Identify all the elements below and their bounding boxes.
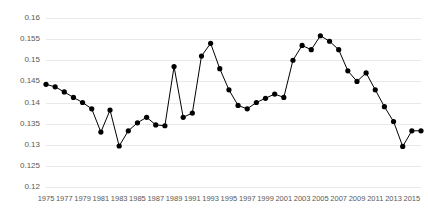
line-chart: 0.120.1250.130.1350.140.1450.150.1550.16… (0, 0, 428, 218)
x-tick-label: 2013 (385, 195, 402, 203)
x-tick-label: 2003 (294, 195, 311, 203)
x-tick-label: 2015 (404, 195, 421, 203)
x-axis-tick-labels: 1975197719791981198319851987198919911993… (0, 0, 428, 218)
x-tick-label: 1981 (93, 195, 110, 203)
x-tick-label: 1991 (184, 195, 201, 203)
x-tick-label: 1985 (129, 195, 146, 203)
x-tick-label: 1987 (147, 195, 164, 203)
x-tick-label: 1975 (38, 195, 55, 203)
x-tick-label: 2005 (312, 195, 329, 203)
x-tick-label: 1989 (166, 195, 183, 203)
x-tick-label: 1983 (111, 195, 128, 203)
x-tick-label: 2011 (367, 195, 383, 203)
x-tick-label: 1999 (257, 195, 274, 203)
x-tick-label: 1995 (221, 195, 238, 203)
x-tick-label: 1997 (239, 195, 256, 203)
x-tick-label: 1977 (56, 195, 73, 203)
x-tick-label: 1979 (74, 195, 91, 203)
x-tick-label: 2007 (330, 195, 347, 203)
x-tick-label: 1993 (202, 195, 219, 203)
x-tick-label: 2001 (275, 195, 292, 203)
x-tick-label: 2009 (349, 195, 366, 203)
